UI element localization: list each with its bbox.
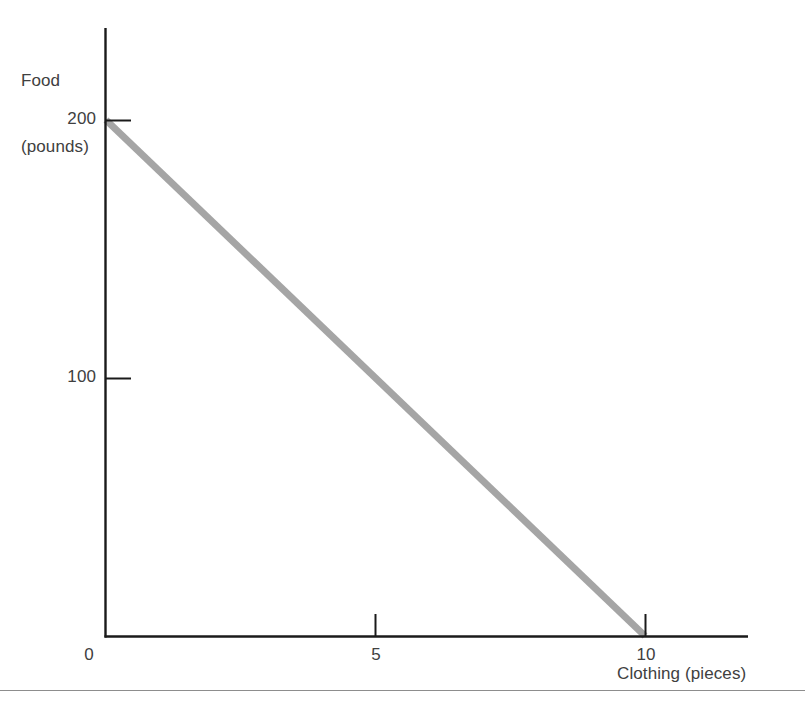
footer-divider <box>0 690 805 691</box>
y-axis-title-line1: Food <box>21 70 89 92</box>
y-tick-label-100: 100 <box>36 367 96 387</box>
x-axis-title: Clothing (pieces) <box>617 663 746 685</box>
x-tick-label-5: 5 <box>356 645 396 665</box>
ppf-line <box>106 120 645 636</box>
y-axis-title-line2: (pounds) <box>21 136 89 158</box>
x-tick-label-0: 0 <box>69 645 109 665</box>
plot-area <box>0 0 805 708</box>
x-tick-label-10: 10 <box>626 645 666 665</box>
y-tick-label-200: 200 <box>36 109 96 129</box>
production-possibilities-chart: Food (pounds) Clothing (pieces) 200 100 … <box>0 0 805 708</box>
